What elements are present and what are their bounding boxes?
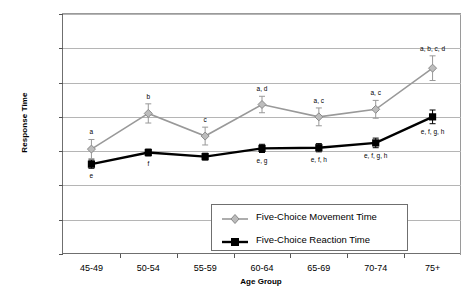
legend-marker-diamond-icon bbox=[221, 211, 249, 223]
data-point-marker bbox=[145, 149, 152, 156]
y-axis-tick-mark bbox=[59, 254, 63, 255]
data-point-marker bbox=[88, 161, 95, 168]
data-point-annotation: a, d bbox=[257, 85, 268, 92]
legend-label-reaction: Five-Choice Reaction Time bbox=[256, 234, 370, 245]
chart-legend: Five-Choice Movement Time Five-Choice Re… bbox=[211, 204, 408, 251]
legend-item-reaction: Five-Choice Reaction Time bbox=[212, 228, 407, 251]
data-point-marker bbox=[87, 145, 95, 153]
chart-figure: Response Time Age Group 2002503003504004… bbox=[0, 0, 467, 297]
data-point-annotation: e, g bbox=[257, 157, 268, 164]
y-axis-title: Response Time bbox=[20, 68, 29, 178]
data-point-annotation: e bbox=[90, 172, 94, 179]
x-axis-title: Age Group bbox=[62, 277, 460, 286]
x-axis-tick-mark bbox=[404, 254, 405, 258]
data-point-marker bbox=[258, 101, 266, 109]
data-point-marker bbox=[315, 113, 323, 121]
data-point-marker bbox=[201, 132, 209, 140]
data-point-annotation: c bbox=[204, 116, 207, 123]
x-axis-tick-mark bbox=[120, 254, 121, 258]
legend-marker-square-icon bbox=[221, 234, 249, 246]
data-point-annotation: f bbox=[147, 160, 149, 167]
x-axis-tick-mark bbox=[177, 254, 178, 258]
x-axis-tick-label: 75+ bbox=[398, 263, 467, 273]
data-point-annotation: a, c bbox=[370, 89, 380, 96]
data-point-marker bbox=[372, 139, 379, 146]
x-axis-tick-mark bbox=[347, 254, 348, 258]
data-point-annotation: e, f, g, h bbox=[421, 128, 445, 135]
data-point-marker bbox=[315, 144, 322, 151]
x-axis-tick-mark bbox=[290, 254, 291, 258]
legend-item-movement: Five-Choice Movement Time bbox=[212, 205, 407, 228]
data-point-marker bbox=[144, 109, 152, 117]
data-point-annotation: e, f, h bbox=[311, 156, 327, 163]
data-point-annotation: a bbox=[90, 128, 94, 135]
plot-area: 200250300350400450500550 45-4950-5455-59… bbox=[62, 14, 460, 254]
data-point-marker bbox=[258, 145, 265, 152]
data-point-marker bbox=[429, 113, 436, 120]
data-point-marker bbox=[202, 153, 209, 160]
x-axis-tick-mark bbox=[234, 254, 235, 258]
data-point-annotation: e, f, g, h bbox=[364, 152, 388, 159]
data-point-annotation: a, b, c, d bbox=[420, 45, 445, 52]
data-point-annotation: a, c bbox=[314, 97, 324, 104]
legend-label-movement: Five-Choice Movement Time bbox=[256, 211, 377, 222]
data-point-annotation: b bbox=[146, 93, 150, 100]
